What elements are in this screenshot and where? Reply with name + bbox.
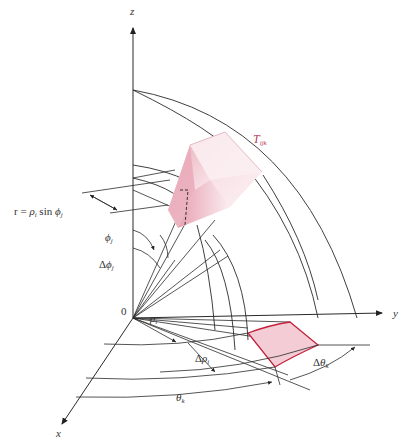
diagram-canvas: z y x 0 Tijk r = ρi sin ϕj ϕj Δϕj ρi Δρi…	[0, 0, 411, 442]
rays	[133, 212, 310, 390]
delta-phi-label: Δϕj	[99, 259, 114, 272]
phi-label: ϕj	[105, 232, 113, 245]
delta-theta-label: Δθk	[313, 357, 329, 370]
volume-element-tijk	[168, 132, 262, 228]
theta-label: θk	[176, 392, 185, 405]
origin-label: 0	[121, 306, 127, 317]
sphere-arcs	[133, 90, 357, 350]
r-formula-label: r = ρi sin ϕj	[14, 206, 63, 219]
y-axis	[133, 313, 382, 318]
y-axis-label: y	[393, 308, 398, 319]
element-label: Tijk	[253, 133, 267, 147]
base-patch	[248, 322, 318, 367]
phi-arcs	[133, 230, 168, 268]
diagram-svg	[0, 0, 411, 442]
z-axis-label: z	[130, 6, 134, 17]
rho-label: ρi	[150, 313, 157, 326]
x-axis	[62, 318, 133, 424]
delta-rho-label: Δρi	[195, 353, 209, 366]
x-axis-label: x	[56, 428, 61, 439]
